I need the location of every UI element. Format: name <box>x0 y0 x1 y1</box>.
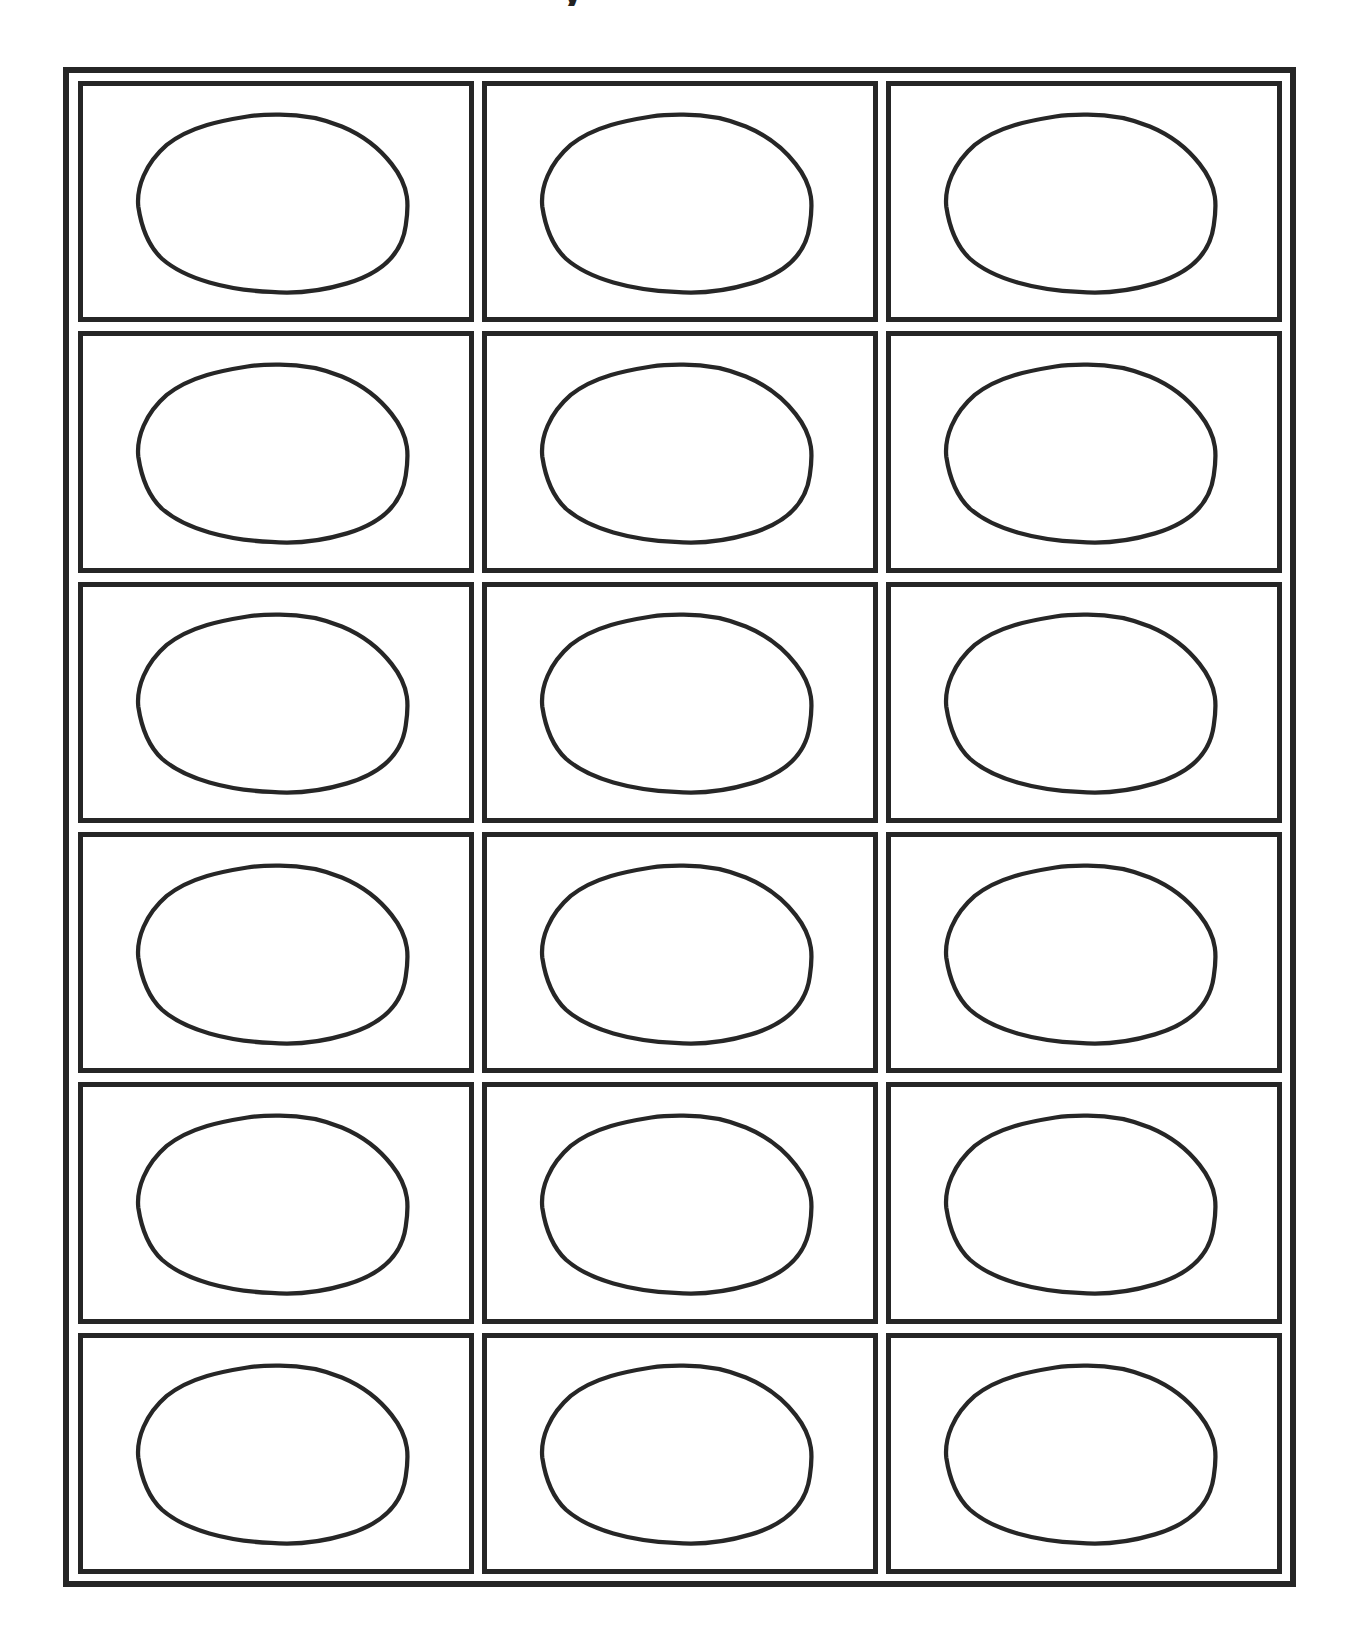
grid-cell-r4-c3 <box>886 832 1282 1073</box>
grid-cell-r5-c2 <box>482 1082 878 1323</box>
oval-shape-icon <box>941 107 1227 297</box>
oval-shape-icon <box>537 107 823 297</box>
grid-cell-r3-c1 <box>78 582 474 823</box>
page-title-fragment: y <box>560 0 584 6</box>
grid-cell-r5-c3 <box>886 1082 1282 1323</box>
oval-shape-icon <box>133 1108 419 1298</box>
oval-shape-icon <box>133 1358 419 1548</box>
grid-cell-r4-c2 <box>482 832 878 1073</box>
oval-shape-icon <box>941 1108 1227 1298</box>
oval-shape-icon <box>537 858 823 1048</box>
oval-shape-icon <box>133 858 419 1048</box>
oval-shape-icon <box>133 357 419 547</box>
oval-shape-icon <box>941 357 1227 547</box>
grid-cell-r6-c2 <box>482 1333 878 1574</box>
oval-grid <box>78 81 1282 1574</box>
oval-shape-icon <box>941 607 1227 797</box>
oval-shape-icon <box>537 607 823 797</box>
grid-cell-r6-c1 <box>78 1333 474 1574</box>
grid-cell-r4-c1 <box>78 832 474 1073</box>
grid-cell-r2-c2 <box>482 331 878 572</box>
oval-shape-icon <box>941 858 1227 1048</box>
grid-cell-r5-c1 <box>78 1082 474 1323</box>
oval-shape-icon <box>941 1358 1227 1548</box>
oval-shape-icon <box>133 107 419 297</box>
grid-cell-r2-c3 <box>886 331 1282 572</box>
grid-cell-r6-c3 <box>886 1333 1282 1574</box>
grid-cell-r1-c2 <box>482 81 878 322</box>
grid-cell-r1-c3 <box>886 81 1282 322</box>
oval-shape-icon <box>133 607 419 797</box>
grid-cell-r3-c3 <box>886 582 1282 823</box>
oval-shape-icon <box>537 357 823 547</box>
oval-shape-icon <box>537 1358 823 1548</box>
grid-cell-r1-c1 <box>78 81 474 322</box>
grid-cell-r2-c1 <box>78 331 474 572</box>
oval-shape-icon <box>537 1108 823 1298</box>
grid-cell-r3-c2 <box>482 582 878 823</box>
